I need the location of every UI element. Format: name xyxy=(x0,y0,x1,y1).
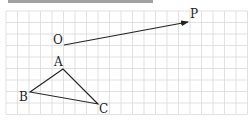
point-label-b: B xyxy=(19,90,28,104)
point-label-c: C xyxy=(99,102,108,116)
square-grid xyxy=(6,11,248,115)
vector-op-arrow xyxy=(64,22,188,45)
cut-off-heading xyxy=(8,0,153,3)
grid-diagram: O P A B C xyxy=(0,0,251,120)
point-label-p: P xyxy=(190,7,198,21)
point-label-o: O xyxy=(53,33,63,47)
point-label-a: A xyxy=(53,55,63,69)
